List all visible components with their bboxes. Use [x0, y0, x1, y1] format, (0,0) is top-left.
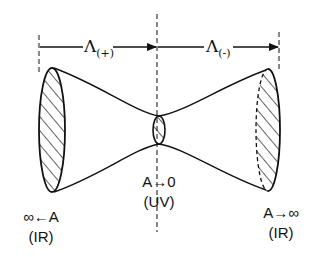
left-limit-label: ∞←A (IR)	[16, 209, 66, 244]
throat-diagram: Λ(+) Λ(-) ∞←A (IR) A→0 (UV) A→∞ (IR)	[0, 0, 321, 257]
lambda-minus-symbol: Λ	[206, 36, 218, 56]
left-regime-text: (IR)	[16, 229, 66, 244]
right-regime-text: (IR)	[256, 225, 306, 240]
right-boundary-cross-section	[256, 69, 280, 191]
right-limit-text: A→∞	[256, 205, 306, 220]
center-limit-label: A→0 (UV)	[134, 174, 184, 209]
lambda-minus-label: Λ(-)	[206, 38, 231, 59]
throat-cross-section	[153, 116, 165, 144]
left-limit-text: ∞←A	[16, 209, 66, 224]
lambda-plus-symbol: Λ	[84, 36, 96, 56]
lambda-plus-subscript: (+)	[96, 47, 114, 60]
center-regime-text: (UV)	[134, 194, 184, 209]
lambda-minus-subscript: (-)	[218, 47, 230, 60]
center-limit-text: A→0	[134, 174, 184, 189]
upper-surface-curve	[54, 68, 266, 116]
right-limit-label: A→∞ (IR)	[256, 205, 306, 240]
lambda-plus-label: Λ(+)	[84, 38, 114, 59]
left-boundary-cross-section	[39, 68, 65, 192]
